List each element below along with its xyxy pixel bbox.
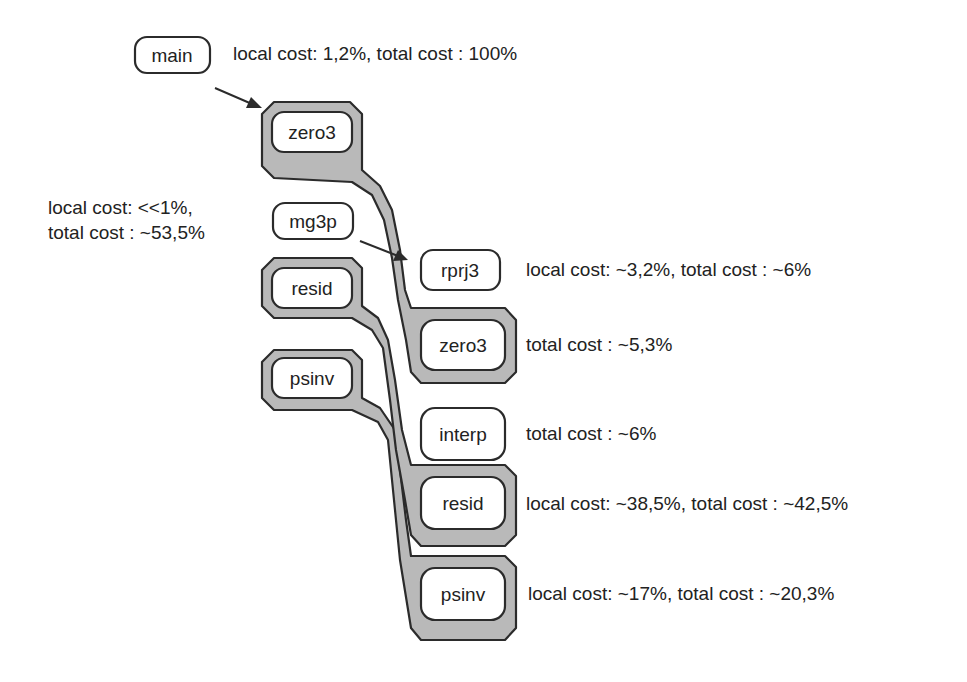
node-rprj3-label: rprj3 [441, 260, 479, 281]
node-resid-right-label: resid [442, 493, 483, 514]
annotation-mg3p-line1: local cost: <<1%, [48, 196, 193, 220]
node-interp-label: interp [439, 424, 487, 445]
annotation-main: local cost: 1,2%, total cost : 100% [233, 42, 517, 66]
node-zero3-right-label: zero3 [439, 335, 487, 356]
node-resid-left-label: resid [291, 278, 332, 299]
node-psinv-right-label: psinv [441, 584, 486, 605]
annotation-interp: total cost : ~6% [526, 422, 656, 446]
node-zero3-top-label: zero3 [288, 122, 336, 143]
annotation-resid-right: local cost: ~38,5%, total cost : ~42,5% [526, 492, 848, 516]
node-psinv-left-label: psinv [290, 368, 335, 389]
call-graph-diagram: main zero3 mg3p resid psinv rprj3 zero3 … [0, 0, 967, 682]
annotation-rprj3: local cost: ~3,2%, total cost : ~6% [526, 258, 811, 282]
annotation-mg3p-line2: total cost : ~53,5% [48, 221, 205, 245]
node-mg3p-label: mg3p [289, 211, 337, 232]
edge-main-zero3 [215, 88, 252, 104]
node-main-label: main [151, 45, 192, 66]
annotation-zero3-right: total cost : ~5,3% [526, 333, 672, 357]
annotation-psinv-right: local cost: ~17%, total cost : ~20,3% [528, 582, 834, 606]
